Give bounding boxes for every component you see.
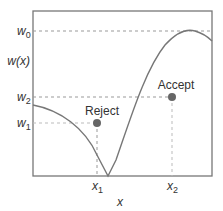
x-axis-label: x bbox=[116, 195, 124, 209]
diagram-canvas: Reject Accept w0 w2 w1 w(x) x1 x2 x bbox=[0, 0, 223, 211]
reject-label: Reject bbox=[85, 104, 120, 118]
y-axis-label: w(x) bbox=[7, 54, 30, 68]
w-curve bbox=[33, 30, 212, 176]
x2-tick-label: x2 bbox=[166, 179, 178, 195]
accept-point bbox=[168, 93, 176, 101]
w1-tick-label: w1 bbox=[17, 116, 31, 132]
accept-label: Accept bbox=[158, 78, 195, 92]
w0-tick-label: w0 bbox=[17, 24, 31, 40]
plot-frame bbox=[33, 11, 212, 176]
w2-tick-label: w2 bbox=[17, 90, 31, 106]
x1-tick-label: x1 bbox=[91, 179, 103, 195]
reject-point bbox=[93, 119, 101, 127]
